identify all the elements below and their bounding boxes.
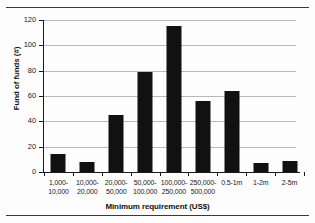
top-divider-rule bbox=[6, 7, 309, 8]
bar bbox=[80, 162, 95, 172]
bar-slot bbox=[44, 20, 73, 172]
bar bbox=[195, 101, 210, 172]
x-axis-tick bbox=[304, 172, 305, 176]
x-axis-title: Minimum requirement (US$) bbox=[0, 202, 315, 211]
bar-slot bbox=[246, 20, 275, 172]
bar bbox=[166, 26, 181, 172]
x-axis-tick-labels: 1,000- 10,00010,000- 20,00020,000- 50,00… bbox=[44, 178, 304, 202]
bar bbox=[51, 154, 66, 172]
x-axis-tick bbox=[275, 172, 276, 176]
y-axis-tick-label: 100 bbox=[6, 41, 36, 49]
x-axis-tick-label: 0.5-1m bbox=[217, 178, 246, 187]
x-axis-tick bbox=[188, 172, 189, 176]
bar bbox=[138, 72, 153, 172]
y-axis-tick bbox=[39, 96, 44, 97]
y-axis-tick-label: 60 bbox=[6, 92, 36, 100]
bar-slot bbox=[217, 20, 246, 172]
bar-chart: Fund of funds (#) 1,000- 10,00010,000- 2… bbox=[0, 12, 315, 208]
bar bbox=[253, 163, 268, 172]
bar-slot bbox=[102, 20, 131, 172]
bar-slot bbox=[73, 20, 102, 172]
bar bbox=[282, 161, 297, 172]
bar-slot bbox=[188, 20, 217, 172]
x-axis-tick bbox=[160, 172, 161, 176]
bars-group bbox=[44, 20, 304, 172]
x-axis-ticks bbox=[44, 172, 304, 176]
x-axis-tick-label: 2-5m bbox=[275, 178, 304, 187]
x-axis-tick-label: 50,000- 100,000 bbox=[131, 178, 160, 196]
x-axis-tick-label: 100,000- 250,000 bbox=[160, 178, 189, 196]
bar-slot bbox=[131, 20, 160, 172]
figure-container: Fund of funds (#) 1,000- 10,00010,000- 2… bbox=[0, 0, 315, 223]
x-axis-tick bbox=[217, 172, 218, 176]
y-axis-tick bbox=[39, 20, 44, 21]
bar bbox=[109, 115, 124, 172]
x-axis-tick-label: 1,000- 10,000 bbox=[44, 178, 73, 196]
x-axis-tick bbox=[102, 172, 103, 176]
x-axis-tick-label: 10,000- 20,000 bbox=[73, 178, 102, 196]
y-axis-tick bbox=[39, 121, 44, 122]
y-axis-tick-label: 120 bbox=[6, 16, 36, 24]
x-axis-tick bbox=[44, 172, 45, 176]
y-axis-tick-label: 80 bbox=[6, 67, 36, 75]
y-axis-tick-label: 20 bbox=[6, 143, 36, 151]
bar-slot bbox=[160, 20, 189, 172]
y-axis-tick-label: 0 bbox=[6, 168, 36, 176]
x-axis-tick-label: 250,000- 500,000 bbox=[188, 178, 217, 196]
bar bbox=[224, 91, 239, 172]
y-axis-tick bbox=[39, 45, 44, 46]
x-axis-tick-label: 20,000- 50,000 bbox=[102, 178, 131, 196]
y-axis-tick bbox=[39, 71, 44, 72]
x-axis-tick-label: 1-2m bbox=[246, 178, 275, 187]
x-axis-tick bbox=[73, 172, 74, 176]
y-axis-tick-label: 40 bbox=[6, 117, 36, 125]
bar-slot bbox=[275, 20, 304, 172]
y-axis-tick bbox=[39, 172, 44, 173]
bottom-divider-rule bbox=[6, 215, 309, 216]
x-axis-tick bbox=[131, 172, 132, 176]
y-axis-tick bbox=[39, 147, 44, 148]
x-axis-tick bbox=[246, 172, 247, 176]
